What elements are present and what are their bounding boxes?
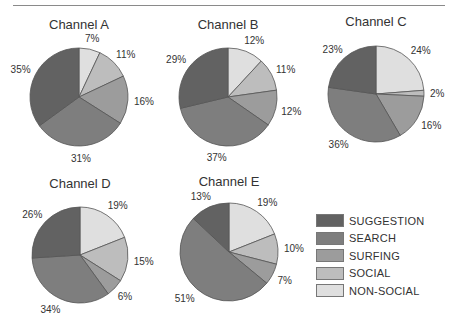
slice-label: 31% xyxy=(71,153,91,164)
legend-label: SOCIAL xyxy=(349,267,391,279)
slice-label: 37% xyxy=(207,152,227,163)
slice-label: 15% xyxy=(134,256,154,267)
slice-label: 11% xyxy=(116,49,135,60)
slice-label: 10% xyxy=(284,243,304,254)
slice-label: 29% xyxy=(166,54,186,65)
slice-label: 23% xyxy=(323,44,343,55)
slice-label: 11% xyxy=(276,64,295,75)
legend-item-non-social: NON-SOCIAL xyxy=(316,282,424,300)
legend-swatch xyxy=(316,249,344,262)
slice-label: 36% xyxy=(329,139,349,150)
pie-chart-channel-c: Channel C24%2%16%36%23% xyxy=(323,14,445,150)
slice-label: 12% xyxy=(244,35,264,46)
legend-label: SURFING xyxy=(349,250,400,262)
slice-label: 13% xyxy=(191,191,211,202)
slice-label: 2% xyxy=(430,88,445,99)
slice-label: 51% xyxy=(175,293,195,304)
slice-label: 24% xyxy=(411,45,431,56)
legend-swatch xyxy=(316,267,344,280)
legend-item-suggestion: SUGGESTION xyxy=(316,212,424,230)
legend-swatch xyxy=(316,284,344,297)
slice-label: 34% xyxy=(40,304,60,315)
legend-item-surfing: SURFING xyxy=(316,247,424,265)
legend-swatch xyxy=(316,214,344,227)
legend: SUGGESTION SEARCH SURFING SOCIAL NON-SOC… xyxy=(316,212,424,300)
slice-label: 16% xyxy=(134,96,154,107)
legend-label: SEARCH xyxy=(349,232,396,244)
chart-title: Channel E xyxy=(199,174,260,189)
legend-label: NON-SOCIAL xyxy=(349,285,419,297)
slice-label: 16% xyxy=(421,120,441,131)
chart-title: Channel C xyxy=(345,14,406,29)
legend-swatch xyxy=(316,232,344,245)
legend-item-search: SEARCH xyxy=(316,230,424,248)
slice-label: 35% xyxy=(11,64,31,75)
slice-label: 19% xyxy=(257,197,277,208)
pie-chart-channel-d: Channel D19%15%6%34%26% xyxy=(22,176,154,315)
slice-label: 7% xyxy=(277,275,292,286)
chart-title: Channel B xyxy=(198,17,259,32)
pie-chart-channel-e: Channel E19%10%7%51%13% xyxy=(175,174,304,304)
pie-chart-channel-a: Channel A7%11%16%31%35% xyxy=(11,17,154,164)
legend-label: SUGGESTION xyxy=(349,215,424,227)
slice-label: 6% xyxy=(118,291,133,302)
pie-chart-channel-b: Channel B12%11%12%37%29% xyxy=(166,17,301,163)
slice-label: 7% xyxy=(85,33,100,44)
slice-label: 19% xyxy=(108,200,128,211)
chart-title: Channel A xyxy=(49,17,109,32)
chart-title: Channel D xyxy=(49,176,110,191)
legend-item-social: SOCIAL xyxy=(316,265,424,283)
slice-label: 26% xyxy=(22,209,42,220)
slice-label: 12% xyxy=(281,106,301,117)
